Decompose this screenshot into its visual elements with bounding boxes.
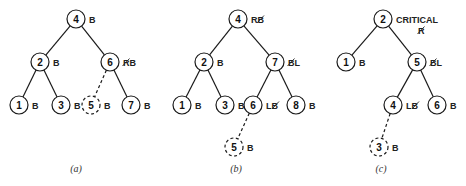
figure-caption-c: (c) (375, 163, 387, 175)
node-balance-label: RB (123, 58, 137, 68)
edge-2-3 (208, 70, 221, 97)
tree-node-7: 7B (122, 96, 151, 114)
tree-node-5: 5BL (408, 53, 443, 71)
tree-node-3: 3B (370, 138, 399, 156)
node-balance-label: B (74, 101, 81, 111)
node-key: 1 (179, 100, 185, 111)
edge-4-3 (382, 114, 390, 139)
node-balance-label: B (89, 15, 96, 25)
tree-node-3: 3B (216, 96, 245, 114)
node-key: 7 (272, 57, 278, 68)
tree-node-6: 6B (428, 96, 457, 114)
edge-6-5 (238, 113, 250, 139)
node-balance-label: B (392, 143, 399, 153)
tree-node-5: 5B (82, 96, 111, 114)
node-key: 1 (343, 57, 349, 68)
figure-a-tree: 4B2B6RB1B3B5B7B(a) (10, 10, 151, 175)
edge-6-5 (95, 70, 107, 97)
tree-node-6: 6RB (101, 53, 137, 71)
edge-7-6 (257, 70, 271, 97)
edge-2-1 (23, 70, 36, 97)
tree-node-2: 2B (31, 53, 60, 71)
node-key: 2 (201, 57, 207, 68)
node-key: 5 (231, 142, 237, 153)
edge-5-6 (421, 70, 433, 97)
node-key: 7 (128, 100, 134, 111)
tree-node-1: 1B (173, 96, 202, 114)
node-key: 4 (73, 14, 79, 25)
edge-4-6 (82, 26, 105, 55)
edge-7-8 (279, 70, 292, 97)
node-key: 6 (434, 100, 440, 111)
edge-2-3 (44, 70, 57, 97)
node-balance-label: CRITICAL (396, 15, 438, 25)
edge-2-1 (352, 26, 377, 55)
node-balance-label: B (195, 101, 202, 111)
node-key: 6 (107, 57, 113, 68)
node-balance-label: B (32, 101, 39, 111)
edge-2-5 (389, 26, 412, 55)
node-key: 4 (390, 100, 396, 111)
node-key: 3 (376, 142, 382, 153)
tree-node-2: 2B (195, 53, 224, 71)
node-key: 2 (380, 14, 386, 25)
edge-4-2 (46, 26, 70, 55)
node-balance-label: RB (251, 15, 265, 25)
tree-node-2: 2CRITICALR (374, 10, 438, 36)
tree-node-7: 7BL (266, 53, 301, 71)
figure-b-tree: 4RB2B7BL1B3B6LB8B5B(b) (173, 10, 316, 175)
node-balance-label: B (309, 101, 316, 111)
node-key: 3 (222, 100, 228, 111)
node-balance-label: B (359, 58, 366, 68)
node-balance-label: B (450, 101, 457, 111)
node-key: 6 (250, 100, 256, 111)
edge-6-7 (114, 70, 127, 97)
node-key: 1 (16, 100, 22, 111)
figure-caption-a: (a) (70, 163, 82, 175)
tree-node-4: 4RB (229, 10, 265, 28)
node-key: 2 (37, 57, 43, 68)
tree-node-1: 1B (10, 96, 39, 114)
tree-node-5: 5B (225, 138, 254, 156)
edge-5-4 (397, 70, 412, 97)
node-balance-label: B (104, 101, 111, 111)
tree-node-3: 3B (52, 96, 81, 114)
edge-4-2 (210, 26, 233, 55)
node-balance-label: B (144, 101, 151, 111)
figure-caption-b: (b) (230, 163, 242, 175)
figure-c-tree: 2CRITICALR1B5BL4LB6B3B(c) (337, 10, 457, 175)
tree-node-4: 4B (67, 10, 96, 28)
edge-4-7 (244, 26, 269, 55)
tree-node-1: 1B (337, 53, 366, 71)
tree-node-4: 4LB (384, 96, 419, 114)
node-key: 5 (88, 100, 94, 111)
edge-2-1 (186, 70, 200, 97)
node-key: 4 (235, 14, 241, 25)
node-key: 3 (58, 100, 64, 111)
node-key: 8 (293, 100, 299, 111)
node-balance-label: B (217, 58, 224, 68)
node-balance-label: B (247, 143, 254, 153)
tree-node-8: 8B (287, 96, 316, 114)
node-key: 5 (414, 57, 420, 68)
tree-node-6: 6LB (244, 96, 279, 114)
tree-rotation-diagram: 4B2B6RB1B3B5B7B(a) 4RB2B7BL1B3B6LB8B5B(b… (0, 0, 466, 186)
node-balance-label: B (53, 58, 60, 68)
